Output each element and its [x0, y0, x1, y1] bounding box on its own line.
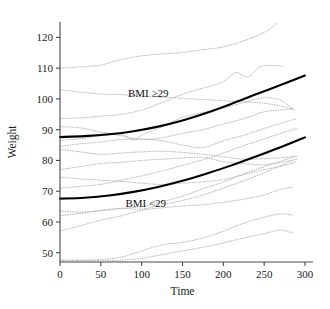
axis-labels-layer: 5060708090100110120050100150200250300Tim… [6, 31, 314, 297]
x-axis-title: Time [171, 285, 195, 297]
y-tick-label: 90 [42, 124, 54, 136]
y-tick-label: 80 [42, 154, 54, 166]
subject-trajectory [60, 128, 297, 188]
x-tick-label: 200 [215, 268, 232, 280]
x-tick-label: 150 [174, 268, 191, 280]
series-annotation-label: BMI ≥29 [128, 87, 169, 99]
x-tick-label: 0 [57, 268, 63, 280]
y-tick-label: 100 [37, 93, 54, 105]
x-tick-label: 100 [133, 268, 150, 280]
subject-trajectory [60, 119, 297, 148]
subject-trajectory [60, 230, 293, 261]
y-tick-label: 120 [37, 31, 54, 43]
weight-over-time-chart: 5060708090100110120050100150200250300Tim… [0, 0, 330, 309]
subject-trajectory [60, 187, 293, 231]
y-tick-label: 50 [42, 247, 54, 259]
x-tick-label: 50 [95, 268, 107, 280]
x-tick-label: 300 [297, 268, 314, 280]
y-axis-title: Weight [6, 125, 19, 159]
x-tick-label: 250 [256, 268, 273, 280]
series-annotations-layer: BMI ≥29BMI <29 [125, 87, 169, 208]
subject-trajectory [60, 160, 293, 215]
series-annotation-label: BMI <29 [125, 197, 166, 209]
y-tick-label: 60 [42, 216, 54, 228]
fitted-mean-curve [60, 76, 305, 138]
fitted-mean-curve [60, 137, 305, 198]
subject-trajectory [60, 24, 276, 69]
axes-layer [56, 22, 313, 266]
y-tick-label: 70 [42, 185, 54, 197]
subject-trajectory [60, 214, 293, 260]
chart-figure: 5060708090100110120050100150200250300Tim… [0, 0, 330, 309]
subject-trajectory [60, 98, 293, 141]
y-tick-label: 110 [37, 62, 54, 74]
individual-trajectories-layer [60, 24, 297, 261]
subject-trajectory [60, 65, 282, 118]
